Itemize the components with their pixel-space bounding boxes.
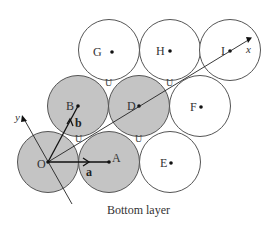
sphere-f: F [170,76,231,137]
void-marker-bd: U [105,77,113,88]
y-axis-label: y [14,111,20,123]
vector-b-label: b [75,116,82,130]
label-h: H [156,44,165,58]
void-marker-ad: U [135,133,143,144]
x-axis-label: x [245,43,251,55]
sphere-i: I [200,20,261,81]
label-f: F [190,100,197,114]
sphere-h: H [140,20,201,81]
label-b: B [66,99,74,113]
label-o: O [37,157,46,171]
sphere-g: G [79,20,140,81]
diagram-caption: Bottom layer [107,203,170,217]
y-axis-arrowhead-icon [21,115,27,122]
label-e: E [160,156,167,170]
sphere-d: D [109,76,170,137]
void-marker-oa: U [75,133,83,144]
sphere-e: E [140,132,201,193]
vector-a-label: a [86,165,92,179]
close-packed-layer-diagram: G H I B D F O A E U U [0,0,276,231]
label-a: A [112,151,121,165]
label-g: G [93,45,102,59]
